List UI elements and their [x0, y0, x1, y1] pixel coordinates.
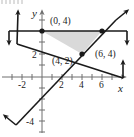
y-tick-label-2: 2 — [32, 50, 37, 60]
graph-canvas: (0, 4) (4, 2) (6, 4) -2 2 4 6 2 -4 x y — [0, 0, 134, 137]
x-tick-label-4: 4 — [79, 80, 84, 90]
point-label-0-4: (0, 4) — [50, 16, 71, 27]
y-axis-label: y — [31, 7, 37, 19]
series-line-ascending-bottom-arrow — [5, 116, 16, 125]
x-tick-label-6: 6 — [99, 80, 104, 90]
series-line-ascending-top-arrow — [116, 11, 127, 20]
x-axis-label: x — [117, 82, 123, 94]
coordinate-graph-figure: (0, 4) (4, 2) (6, 4) -2 2 4 6 2 -4 x y — [0, 0, 134, 137]
point-label-6-4: (6, 4) — [95, 49, 116, 60]
x-tick-label--2: -2 — [18, 80, 26, 90]
point-label-4-2: (4, 2) — [52, 56, 73, 67]
series-line-descending-left-arrow — [17, 12, 18, 44]
data-point — [79, 51, 84, 56]
shaded-region — [42, 31, 102, 54]
y-tick-label--4: -4 — [26, 117, 34, 127]
data-point — [99, 28, 104, 33]
data-point — [39, 28, 44, 33]
x-tick-label-2: 2 — [59, 80, 64, 90]
